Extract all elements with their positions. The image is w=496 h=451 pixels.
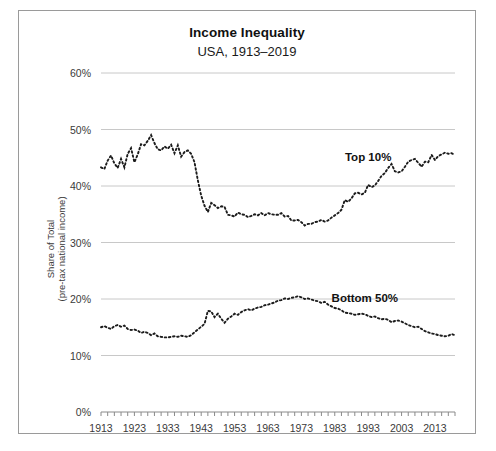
series-annotation-top-10: Top 10%: [345, 151, 391, 163]
y-axis-title-line2: (pre-tax national income): [56, 196, 67, 301]
x-tick-label: 1953: [223, 422, 247, 433]
y-tick-label: 0%: [76, 406, 91, 418]
x-tick-label: 1983: [323, 422, 347, 433]
x-tick-label: 1913: [89, 422, 113, 433]
x-tick-label: 1973: [290, 422, 314, 433]
y-axis-tick-labels: 0%10%20%30%40%50%60%: [70, 67, 91, 418]
series-annotations: Top 10%Bottom 50%: [332, 151, 398, 304]
series-line-bottom-50: [101, 296, 455, 337]
y-tick-label: 20%: [70, 293, 91, 305]
y-tick-label: 50%: [70, 124, 91, 136]
x-axis-ticks: [101, 412, 455, 416]
income-inequality-line-chart: 0%10%20%30%40%50%60% 1913192319331943195…: [19, 11, 475, 433]
x-tick-label: 1943: [190, 422, 214, 433]
data-series-group: [101, 135, 455, 337]
y-tick-label: 30%: [70, 237, 91, 249]
x-tick-label: 1993: [356, 422, 380, 433]
y-tick-label: 60%: [70, 67, 91, 79]
x-tick-label: 1923: [123, 422, 147, 433]
x-tick-label: 1933: [156, 422, 180, 433]
series-annotation-bottom-50: Bottom 50%: [332, 292, 398, 304]
x-tick-label: 2003: [390, 422, 414, 433]
x-tick-label: 1963: [256, 422, 280, 433]
series-line-top-10: [101, 135, 455, 225]
chart-frame: Income Inequality USA, 1913–2019 0%10%20…: [18, 10, 476, 434]
y-tick-label: 40%: [70, 180, 91, 192]
y-axis-title-line1: Share of Total: [45, 220, 56, 278]
x-tick-label: 2013: [423, 422, 447, 433]
x-axis-tick-labels: 1913192319331943195319631973198319932003…: [89, 422, 446, 433]
y-tick-label: 10%: [70, 350, 91, 362]
